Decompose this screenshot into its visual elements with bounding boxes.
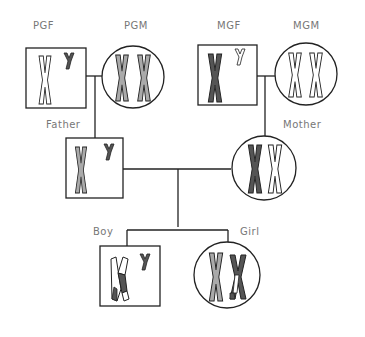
mgf-male-square <box>198 45 257 105</box>
pgf-male-square <box>26 48 86 108</box>
pedigree-diagram <box>0 0 365 337</box>
father-male-square <box>66 138 123 198</box>
boy-male-square <box>100 246 160 306</box>
mgm-female-circle <box>275 43 337 105</box>
mother-female-circle <box>232 136 296 200</box>
pgm-female-circle <box>102 46 164 108</box>
girl-female-circle <box>194 242 260 308</box>
